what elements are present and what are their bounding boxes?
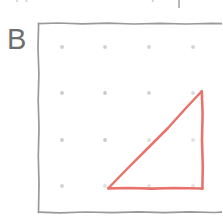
peg-dot — [191, 45, 195, 49]
triangle-vertical-leg — [202, 91, 203, 188]
peg-dot — [60, 91, 64, 95]
peg-dot — [191, 138, 195, 142]
peg-dot — [103, 184, 107, 188]
geoboard-drawing — [0, 0, 222, 224]
peg-dot — [103, 138, 107, 142]
peg-dot — [103, 45, 107, 49]
peg-dot — [147, 138, 151, 142]
peg-dot — [147, 91, 151, 95]
peg-dot — [103, 91, 107, 95]
peg-dot — [60, 45, 64, 49]
peg-dot-grid — [60, 45, 195, 188]
peg-dot — [60, 184, 64, 188]
frame-left-edge — [38, 23, 39, 212]
figure-panel: opposite sides are parallel B — [0, 0, 222, 224]
peg-dot — [191, 91, 195, 95]
frame-bottom-edge — [39, 212, 223, 213]
right-triangle — [108, 91, 203, 188]
peg-dot — [60, 138, 64, 142]
peg-dot — [147, 45, 151, 49]
triangle-hypotenuse — [109, 92, 202, 189]
frame-top-edge — [39, 23, 223, 24]
triangle-horizontal-leg — [108, 188, 202, 189]
geoboard-frame — [38, 23, 222, 213]
